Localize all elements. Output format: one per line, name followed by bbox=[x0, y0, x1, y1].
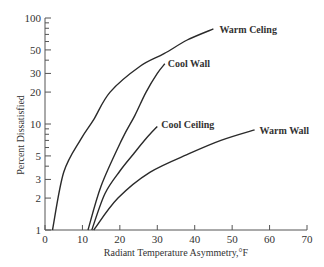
curve-warm-wall bbox=[94, 130, 255, 230]
curve-cool-ceiling bbox=[92, 126, 158, 230]
y-tick-label: 10 bbox=[30, 118, 42, 130]
y-tick-label: 20 bbox=[30, 86, 42, 98]
label-cool-ceiling: Cool Ceiling bbox=[161, 119, 214, 130]
radiant-asymmetry-chart: 010203040506070123510203050100 Warm Celi… bbox=[0, 0, 324, 267]
y-axis-title: Percent Dissatisfied bbox=[15, 95, 26, 175]
y-tick-label: 5 bbox=[36, 150, 42, 162]
curve-labels: Warm CelingCool WallCool CeilingWarm Wal… bbox=[161, 24, 309, 136]
x-tick-label: 40 bbox=[189, 233, 201, 245]
y-tick-label: 1 bbox=[36, 224, 42, 236]
y-tick-label: 3 bbox=[36, 173, 42, 185]
label-cool-wall: Cool Wall bbox=[168, 58, 211, 69]
x-tick-label: 20 bbox=[114, 233, 126, 245]
y-tick-label: 50 bbox=[30, 44, 42, 56]
label-warm-wall: Warm Wall bbox=[260, 125, 310, 136]
y-tick-label: 30 bbox=[30, 67, 42, 79]
x-tick-label: 70 bbox=[302, 233, 314, 245]
x-tick-label: 50 bbox=[227, 233, 239, 245]
x-tick-label: 60 bbox=[264, 233, 276, 245]
x-tick-label: 0 bbox=[42, 233, 48, 245]
x-tick-label: 30 bbox=[152, 233, 164, 245]
curves bbox=[53, 29, 255, 230]
y-tick-label: 100 bbox=[25, 12, 42, 24]
x-tick-label: 10 bbox=[77, 233, 89, 245]
label-warm-celing: Warm Celing bbox=[219, 24, 277, 35]
x-axis-title: Radiant Temperature Asymmetry,°F bbox=[104, 247, 249, 258]
curve-cool-wall bbox=[88, 64, 165, 230]
y-tick-label: 2 bbox=[36, 192, 42, 204]
